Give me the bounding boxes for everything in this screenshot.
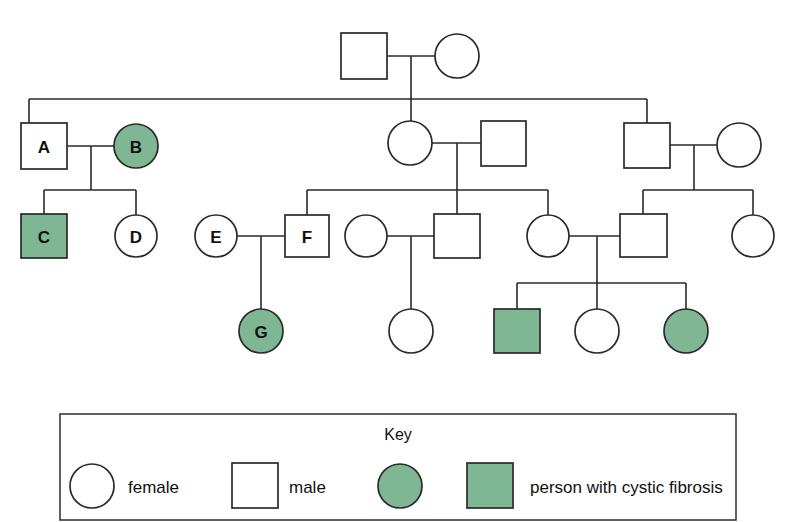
key-symbol-male <box>232 463 278 508</box>
key-label-affected: person with cystic fibrosis <box>530 478 723 497</box>
person-g1-m[interactable] <box>341 33 387 79</box>
key-title: Key <box>384 426 412 443</box>
person-g3-m2[interactable] <box>620 214 667 257</box>
key-symbol-female <box>70 464 114 508</box>
person-label-E: E <box>210 228 221 247</box>
person-g2-f1[interactable] <box>388 121 432 165</box>
person-g3-f1[interactable] <box>345 215 387 257</box>
key-legend: Key female male person with cystic fibro… <box>60 414 736 520</box>
pedigree-chart: A B C D E F G <box>0 0 787 522</box>
key-label-male: male <box>289 478 326 497</box>
person-label-A: A <box>38 138 50 157</box>
key-symbol-affected-square <box>467 463 513 508</box>
person-g2-f2[interactable] <box>717 123 761 167</box>
person-g4-f2[interactable] <box>575 309 619 353</box>
pedigree-svg: A B C D E F G <box>0 0 787 522</box>
person-label-D: D <box>130 228 142 247</box>
person-g3-f2[interactable] <box>527 215 569 257</box>
person-label-F: F <box>302 228 312 247</box>
person-g1-f[interactable] <box>435 34 479 78</box>
key-symbol-affected-circle <box>378 464 422 508</box>
person-label-B: B <box>130 138 142 157</box>
person-g4-m1[interactable] <box>494 309 540 353</box>
person-g3-m1[interactable] <box>434 214 480 258</box>
person-label-C: C <box>38 228 50 247</box>
person-g2-m2[interactable] <box>624 123 670 168</box>
person-g3-f3[interactable] <box>732 215 774 257</box>
person-g2-m1[interactable] <box>481 121 526 166</box>
person-label-G: G <box>254 323 267 342</box>
key-label-female: female <box>128 478 179 497</box>
person-g4-f1[interactable] <box>389 309 433 353</box>
person-g4-f3[interactable] <box>664 309 708 353</box>
